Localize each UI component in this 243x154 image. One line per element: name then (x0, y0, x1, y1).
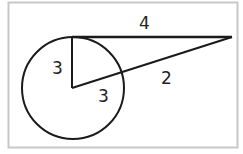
label-external-secant: 2 (161, 68, 172, 88)
label-radius-vertical: 3 (52, 58, 63, 78)
label-radius-secant: 3 (98, 86, 109, 106)
diagram-canvas: 4 3 3 2 (0, 0, 243, 154)
label-tangent: 4 (139, 13, 150, 33)
